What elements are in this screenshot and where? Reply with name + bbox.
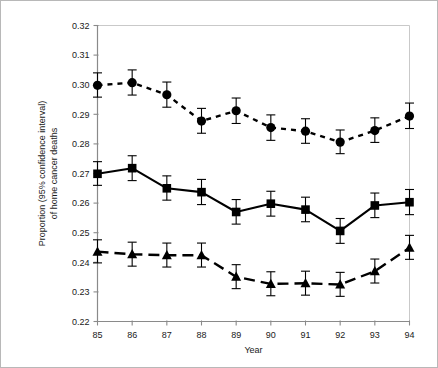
data-point-square (232, 208, 241, 217)
y-axis-title-line1: Proportion (95% confidence interval) (37, 101, 47, 247)
x-tick-label: 89 (231, 330, 241, 340)
x-tick-label: 93 (370, 330, 380, 340)
y-tick-label: 0.31 (72, 50, 90, 60)
data-point-triangle (370, 266, 380, 275)
data-point-circle (405, 111, 414, 120)
y-tick-label: 0.24 (72, 258, 90, 268)
series-circle-series (93, 70, 414, 154)
data-point-square (197, 188, 206, 197)
data-point-square (301, 205, 310, 214)
y-tick-label: 0.22 (72, 317, 90, 327)
data-point-circle (266, 123, 275, 132)
data-point-circle (301, 127, 310, 136)
y-tick-label: 0.29 (72, 110, 90, 120)
y-tick-label: 0.30 (72, 80, 90, 90)
series-line (98, 168, 410, 231)
data-point-square (336, 227, 345, 236)
x-tick-label: 87 (162, 330, 172, 340)
x-tick-label: 91 (300, 330, 310, 340)
data-point-square (163, 184, 172, 193)
x-tick-label: 85 (92, 330, 102, 340)
data-point-circle (93, 81, 102, 90)
y-axis-title-line2: of home cancer deaths (49, 127, 59, 219)
series-line (98, 83, 410, 142)
data-point-square (371, 201, 380, 210)
series-square-series (93, 156, 414, 244)
chart-figure: 0.220.230.240.250.260.270.280.290.300.31… (0, 0, 438, 368)
series-triangle-series (93, 235, 415, 296)
x-axis-ticks: 85868788899091929394 (92, 321, 414, 340)
chart-canvas: 0.220.230.240.250.260.270.280.290.300.31… (1, 1, 438, 368)
x-tick-label: 90 (266, 330, 276, 340)
data-point-triangle (197, 250, 207, 259)
y-axis-title: Proportion (95% confidence interval)of h… (37, 101, 59, 247)
y-tick-label: 0.32 (72, 21, 90, 31)
x-tick-label: 88 (196, 330, 206, 340)
x-tick-label: 92 (335, 330, 345, 340)
data-point-circle (370, 126, 379, 135)
x-axis-title: Year (244, 345, 262, 355)
y-tick-label: 0.28 (72, 139, 90, 149)
y-tick-label: 0.25 (72, 228, 90, 238)
series-line (98, 248, 410, 285)
x-tick-label: 94 (404, 330, 414, 340)
data-point-square (93, 169, 102, 178)
data-point-square (405, 198, 414, 207)
data-point-circle (336, 138, 345, 147)
data-point-circle (232, 106, 241, 115)
data-series-group (93, 70, 415, 296)
y-tick-label: 0.27 (72, 169, 90, 179)
data-point-circle (128, 78, 137, 87)
axis-labels-group: YearProportion (95% confidence interval)… (37, 101, 263, 355)
data-point-square (128, 164, 137, 173)
y-tick-label: 0.23 (72, 287, 90, 297)
y-tick-label: 0.26 (72, 198, 90, 208)
data-point-square (267, 199, 276, 208)
data-point-circle (162, 90, 171, 99)
x-tick-label: 86 (127, 330, 137, 340)
data-point-triangle (231, 272, 241, 281)
data-point-circle (197, 117, 206, 126)
data-point-triangle (405, 243, 415, 252)
